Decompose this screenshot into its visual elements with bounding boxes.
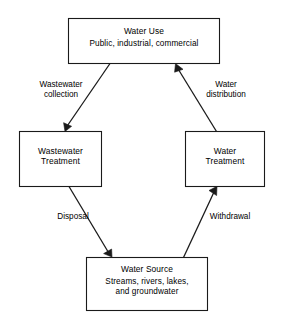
edge-label-disposal-line1: Disposal	[43, 212, 103, 222]
node-water-source-box[interactable]	[87, 258, 208, 311]
node-water-treatment-box[interactable]	[186, 132, 265, 187]
edge-label-wastewater-collection-line1: Wastewater	[25, 80, 97, 90]
edge-label-disposal: Disposal	[43, 212, 103, 222]
node-wastewater-treatment-box[interactable]	[20, 132, 102, 187]
edge-label-withdrawal-line1: Withdrawal	[196, 212, 264, 222]
diagram-canvas	[0, 0, 283, 328]
edge-wastewater-collection-arrowhead	[64, 123, 72, 132]
node-water-use-box[interactable]	[69, 19, 220, 64]
edge-label-water-distribution-line2: distribution	[190, 90, 262, 100]
edge-label-water-distribution-line1: Water	[190, 80, 262, 90]
edge-label-withdrawal: Withdrawal	[196, 212, 264, 222]
edge-label-wastewater-collection: Wastewater collection	[25, 80, 97, 100]
water-cycle-diagram: Water Use Public, industrial, commercial…	[0, 0, 283, 328]
edge-label-water-distribution: Water distribution	[190, 80, 262, 100]
edge-label-wastewater-collection-line2: collection	[25, 90, 97, 100]
edge-withdrawal-line	[184, 191, 215, 258]
edge-water-distribution-arrowhead	[175, 64, 183, 73]
